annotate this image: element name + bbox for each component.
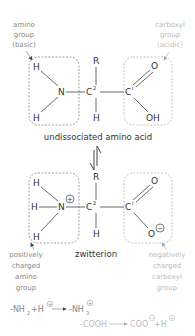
svg-text:R: R xyxy=(93,172,99,182)
svg-text:carboxyl: carboxyl xyxy=(152,273,182,281)
amino-protonation-equation: -NH 2 +H + -NH 3 + xyxy=(10,300,93,316)
svg-text:+: + xyxy=(48,301,52,307)
svg-text:negatively: negatively xyxy=(149,251,186,259)
svg-text:−: − xyxy=(157,225,163,233)
amino-group-label: amino group (basic) xyxy=(12,21,36,49)
svg-text:N: N xyxy=(58,87,65,97)
svg-text:+: + xyxy=(67,196,73,204)
svg-text:C: C xyxy=(86,202,92,212)
svg-text:+H: +H xyxy=(154,320,167,329)
svg-text:group: group xyxy=(16,284,37,292)
amino-acid-diagram: amino group (basic) carboxyl group (acid… xyxy=(0,0,195,336)
svg-text:group: group xyxy=(157,284,178,292)
svg-text:C: C xyxy=(86,87,92,97)
svg-text:H: H xyxy=(33,62,40,72)
zwitterion-structure: H H H N + C 2 R H C I O O − xyxy=(31,172,164,242)
svg-text:group: group xyxy=(14,31,35,39)
svg-text:+H: +H xyxy=(31,305,44,314)
svg-text:charged: charged xyxy=(12,262,41,270)
svg-text:amino: amino xyxy=(13,21,35,29)
svg-text:H: H xyxy=(93,229,100,239)
svg-text:I: I xyxy=(132,85,133,91)
svg-text:O: O xyxy=(151,176,158,186)
positive-label-pointer xyxy=(31,243,34,250)
svg-text:H: H xyxy=(93,113,100,123)
svg-text:OH: OH xyxy=(146,113,160,123)
negative-label-pointer xyxy=(162,243,167,250)
svg-text:+: + xyxy=(170,315,174,321)
svg-text:O: O xyxy=(148,229,155,239)
svg-text:2: 2 xyxy=(93,200,96,206)
svg-text:(acidic): (acidic) xyxy=(157,41,183,49)
undissociated-structure: H H N C 2 R H C I O OH xyxy=(33,56,160,123)
svg-text:C: C xyxy=(125,87,131,97)
svg-text:H: H xyxy=(33,178,40,188)
svg-text:-NH: -NH xyxy=(10,305,25,314)
svg-text:H: H xyxy=(31,202,38,212)
caption-zwitterion: zwitterion xyxy=(75,249,117,259)
equilibrium-arrow xyxy=(90,146,101,170)
svg-text:(basic): (basic) xyxy=(12,41,36,49)
svg-text:+: + xyxy=(88,300,92,306)
svg-text:group: group xyxy=(160,31,181,39)
carboxyl-dissociation-equation: -COOH COO − +H + xyxy=(80,315,175,329)
svg-text:3: 3 xyxy=(86,310,89,316)
svg-text:positively: positively xyxy=(9,251,43,259)
negative-charged-label: negatively charged carboxyl group xyxy=(149,251,186,292)
svg-text:amino: amino xyxy=(15,273,37,281)
caption-undissociated: undissociated amino acid xyxy=(44,132,152,142)
svg-text:charged: charged xyxy=(153,262,182,270)
svg-text:O: O xyxy=(151,61,158,71)
svg-text:R: R xyxy=(93,56,99,66)
svg-text:2: 2 xyxy=(27,310,30,316)
svg-text:2: 2 xyxy=(93,85,96,91)
svg-text:N: N xyxy=(58,202,65,212)
amino-label-pointer xyxy=(26,51,32,60)
svg-text:C: C xyxy=(125,202,131,212)
carboxyl-group-label: carboxyl group (acidic) xyxy=(155,21,185,49)
svg-text:carboxyl: carboxyl xyxy=(155,21,185,29)
svg-text:COO: COO xyxy=(130,320,148,329)
svg-text:H: H xyxy=(33,232,40,242)
positive-charged-label: positively charged amino group xyxy=(9,251,43,292)
svg-text:-NH: -NH xyxy=(69,305,84,314)
svg-text:H: H xyxy=(33,113,40,123)
svg-text:-COOH: -COOH xyxy=(80,320,107,329)
svg-text:I: I xyxy=(132,200,133,206)
